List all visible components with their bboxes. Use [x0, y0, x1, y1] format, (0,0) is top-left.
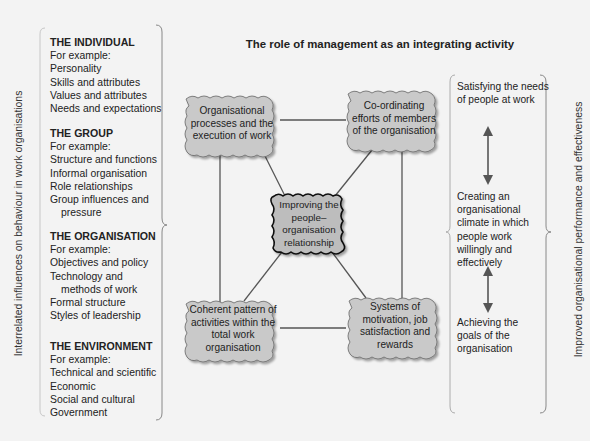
outcome-needs: Satisfying the needs of people at work — [457, 80, 552, 106]
box-bottom-right: Systems of motivation, job satisfaction … — [352, 300, 438, 352]
box-top-left: Organisational processes and the executi… — [188, 98, 276, 150]
box-bottom-left: Coherent pattern of activities within th… — [186, 303, 280, 355]
right-axis-label: Improved organisational performance and … — [573, 70, 584, 390]
outcomes-left-bracket — [446, 75, 455, 413]
box-top-right: Co-ordinating efforts of members of the … — [352, 93, 436, 145]
double-arrow-icon — [483, 126, 493, 185]
left-inner-brace — [40, 28, 45, 416]
double-arrow-icon — [483, 266, 493, 313]
outcome-climate: Creating an organisational climate in wh… — [457, 190, 547, 269]
left-brace — [156, 25, 167, 420]
box-center: Improving the people–organisation relati… — [274, 197, 344, 251]
outcome-goals: Achieving the goals of the organisation — [457, 316, 542, 356]
